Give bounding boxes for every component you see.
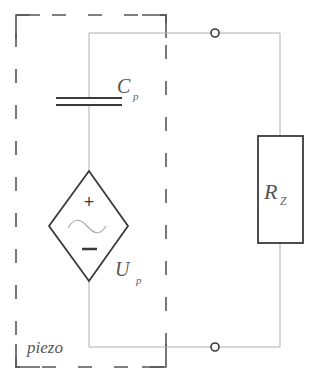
source-subscript: p — [135, 274, 142, 286]
wire-source-bottom — [89, 281, 211, 347]
wire-bottom-right — [219, 243, 280, 347]
resistor-rz: R Z — [258, 136, 303, 243]
capacitor-cp: C p — [56, 75, 139, 105]
source-label: U — [115, 258, 131, 280]
circuit-diagram: C p + U p R Z piezo — [0, 0, 314, 383]
resistor-subscript: Z — [280, 194, 287, 208]
wire-top — [89, 33, 211, 98]
terminal-bottom-icon — [211, 343, 219, 351]
resistor-label: R — [263, 179, 278, 204]
voltage-source-up: + U p — [49, 171, 142, 286]
capacitor-subscript: p — [132, 90, 139, 102]
capacitor-label: C — [117, 75, 131, 97]
wire-top-right — [219, 33, 280, 136]
terminal-top-icon — [211, 29, 219, 37]
piezo-label: piezo — [26, 338, 63, 357]
plus-sign: + — [84, 192, 95, 212]
